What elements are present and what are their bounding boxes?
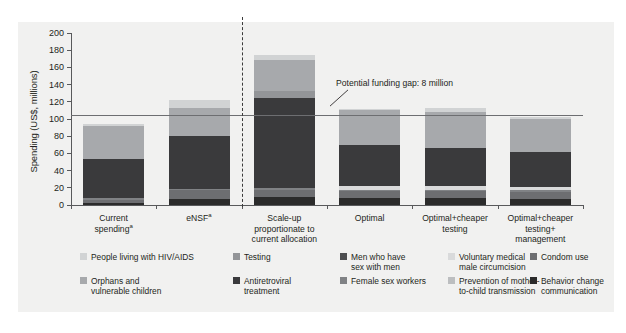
bar-segment (510, 187, 571, 190)
legend-swatch-icon (448, 277, 455, 284)
legend-label: Testing (244, 252, 271, 262)
y-axis-title: Spending (US$, millions) (28, 47, 39, 197)
legend: People living with HIV/AIDSOrphans and v… (18, 252, 614, 310)
bar-segment (425, 108, 486, 112)
bar-segment (339, 190, 400, 192)
x-tick (583, 205, 584, 209)
y-tick-mark (67, 50, 71, 51)
bar-2[interactable] (169, 33, 230, 205)
annotation-leader-line (329, 89, 349, 107)
bar-segment (425, 148, 486, 186)
legend-label: Behavior change communication (541, 276, 604, 296)
legend-item[interactable]: People living with HIV/AIDS (80, 252, 194, 262)
bar-segment (169, 199, 230, 205)
y-tick-mark (67, 33, 71, 34)
legend-swatch-icon (340, 253, 347, 260)
bar-segment (254, 197, 315, 205)
bar-segment (339, 186, 400, 189)
legend-swatch-icon (530, 253, 537, 260)
y-tick-120: 120 (38, 97, 71, 107)
legend-item[interactable]: Men who have sex with men (340, 252, 405, 272)
x-tick (498, 205, 499, 209)
legend-swatch-icon (80, 253, 87, 260)
x-tick (412, 205, 413, 209)
legend-item[interactable]: Testing (233, 252, 271, 262)
bar-segment (425, 190, 486, 192)
bar-segment (425, 186, 486, 189)
bar-segment (425, 112, 486, 148)
y-tick-label: 120 (38, 97, 64, 107)
plot-area: 200180160140120100806040200 Currentspend… (71, 33, 583, 205)
y-tick-mark (67, 119, 71, 120)
bar-segment (510, 199, 571, 205)
bar-segment (169, 100, 230, 108)
y-tick-180: 180 (38, 45, 71, 55)
x-axis-label-3: Scale-upproportionate tocurrent allocati… (238, 213, 331, 245)
bar-segment (510, 190, 571, 192)
bar-segment (254, 60, 315, 92)
legend-swatch-icon (233, 253, 240, 260)
y-tick-label: 40 (38, 166, 64, 176)
bar-segment (510, 117, 571, 119)
legend-item[interactable]: Condom use (530, 252, 589, 262)
bar-segment (510, 119, 571, 152)
y-tick-20: 20 (38, 183, 71, 193)
legend-item[interactable]: Prevention of mother- to-child transmiss… (448, 276, 540, 296)
y-tick-60: 60 (38, 148, 71, 158)
bar-segment (339, 191, 400, 198)
y-tick-40: 40 (38, 166, 71, 176)
y-tick-label: 0 (38, 200, 64, 210)
legend-item[interactable]: Female sex workers (340, 276, 426, 286)
y-tick-mark (67, 84, 71, 85)
legend-item[interactable]: Voluntary medical male circumcision (448, 252, 526, 272)
legend-item[interactable]: Antiretroviral treatment (233, 276, 291, 296)
bar-4[interactable] (339, 33, 400, 205)
bar-segment (425, 191, 486, 198)
legend-label: Female sex workers (351, 276, 426, 286)
y-tick-label: 60 (38, 148, 64, 158)
reference-line (71, 115, 583, 116)
legend-label: Prevention of mother- to-child transmiss… (459, 276, 540, 296)
y-tick-label: 160 (38, 62, 64, 72)
legend-label: Condom use (541, 252, 589, 262)
bar-segment (83, 124, 144, 126)
bar-segment (169, 189, 230, 190)
bar-3[interactable] (254, 33, 315, 205)
bar-segment (510, 192, 571, 198)
y-tick-label: 140 (38, 80, 64, 90)
legend-swatch-icon (530, 277, 537, 284)
bar-segment (339, 145, 400, 186)
y-tick-140: 140 (38, 80, 71, 90)
x-tick (71, 205, 72, 209)
bar-segment (83, 126, 144, 160)
bar-segment (169, 108, 230, 136)
legend-label: Voluntary medical male circumcision (459, 252, 526, 272)
legend-item[interactable]: Behavior change communication (530, 276, 604, 296)
y-tick-label: 20 (38, 183, 64, 193)
bar-segment (254, 190, 315, 198)
bar-segment (339, 198, 400, 205)
y-axis-line (71, 33, 72, 205)
funding-gap-annotation: Potential funding gap: 8 million (336, 78, 453, 88)
bar-segment (425, 198, 486, 205)
x-axis-label-1: Currentspendinga (67, 213, 160, 234)
y-tick-mark (67, 170, 71, 171)
y-tick-label: 200 (38, 28, 64, 38)
y-tick-mark (67, 153, 71, 154)
y-tick-label: 80 (38, 131, 64, 141)
y-tick-200: 200 (38, 28, 71, 38)
bar-segment (169, 190, 230, 199)
x-axis-label-5: Optimal+cheapertesting (408, 213, 501, 234)
legend-swatch-icon (80, 277, 87, 284)
bar-6[interactable] (510, 33, 571, 205)
legend-swatch-icon (233, 277, 240, 284)
y-tick-mark (67, 67, 71, 68)
bar-segment (83, 203, 144, 205)
legend-label: Orphans and vulnerable children (91, 276, 161, 296)
bar-5[interactable] (425, 33, 486, 205)
x-axis-label-4: Optimal (323, 213, 416, 224)
legend-item[interactable]: Orphans and vulnerable children (80, 276, 161, 296)
bar-1[interactable] (83, 33, 144, 205)
y-tick-label: 180 (38, 45, 64, 55)
legend-swatch-icon (448, 253, 455, 260)
